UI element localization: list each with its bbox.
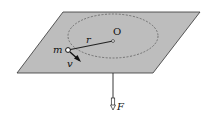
label-o: O <box>113 26 121 37</box>
hole-o <box>112 40 115 43</box>
label-m: m <box>53 44 62 55</box>
mass-ball <box>66 48 71 53</box>
label-v: v <box>67 58 73 69</box>
force-arrowhead-icon <box>111 105 116 110</box>
label-f: F <box>116 101 125 112</box>
diagram: O r m v F <box>0 0 214 119</box>
